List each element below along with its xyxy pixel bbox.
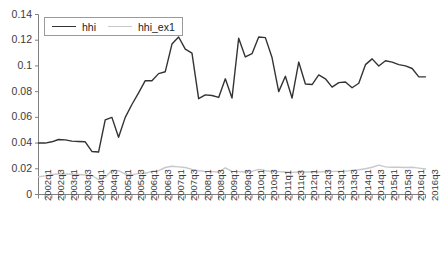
x-tick-label: 2013q3 [349,169,359,201]
y-tick-label: 0.08 [0,86,32,97]
x-tick-label: 2002q1 [43,169,53,201]
x-tick-label: 2003q3 [83,169,93,201]
x-tick-label: 2004q1 [96,169,106,201]
legend-label-hhi_ex1: hhi_ex1 [138,21,175,33]
x-tick-label: 2013q1 [336,169,346,201]
series-line-hhi [39,37,426,152]
legend-swatch-hhi_ex1 [108,26,132,27]
x-tick-label: 2004q3 [109,169,119,201]
legend-item-hhi: hhi [52,21,96,33]
x-tick-label: 2008q3 [216,169,226,201]
y-tick-label: 0.06 [0,111,32,122]
y-tick-label: 0 [0,189,32,200]
chart-legend: hhihhi_ex1 [44,17,183,36]
x-tick-label: 2012q3 [323,169,333,201]
y-tick-label: 0.1 [0,60,32,71]
y-tick-label: 0.04 [0,137,32,148]
x-tick-label: 2003q1 [69,169,79,201]
x-tick-label: 2014q3 [376,169,386,201]
x-tick-label: 2002q3 [56,169,66,201]
axis-layer [39,15,426,195]
x-tick-label: 2007q3 [189,169,199,201]
x-tick-label: 2007q1 [176,169,186,201]
x-tick-label: 2006q3 [163,169,173,201]
y-tick-label: 0.12 [0,34,32,45]
x-tick-label: 2011q1 [283,170,293,201]
x-tick-label: 2005q1 [123,169,133,201]
x-tick-label: 2010q1 [256,169,266,201]
x-tick-label: 2016q3 [430,169,440,201]
chart-container: 00.020.040.060.080.10.120.14 2002q12002q… [0,0,442,258]
x-tick-label: 2006q1 [149,169,159,201]
y-tick-label: 0.14 [0,9,32,20]
y-tick-label: 0.02 [0,163,32,174]
x-tick-label: 2009q3 [243,169,253,201]
legend-item-hhi_ex1: hhi_ex1 [108,21,175,33]
x-tick-label: 2010q3 [269,169,279,201]
x-tick-label: 2016q1 [416,169,426,201]
x-tick-label: 2015q3 [403,169,413,201]
x-tick-label: 2014q1 [363,169,373,201]
chart-plot-area [0,0,442,258]
data-series-layer [39,37,426,180]
x-tick-label: 2008q1 [203,169,213,201]
x-tick-label: 2012q1 [309,169,319,201]
x-tick-label: 2005q3 [136,169,146,201]
legend-swatch-hhi [52,26,76,27]
x-tick-label: 2009q1 [229,169,239,201]
x-tick-label: 2015q1 [389,169,399,201]
legend-label-hhi: hhi [82,21,96,33]
x-tick-label: 2011q3 [296,170,306,201]
